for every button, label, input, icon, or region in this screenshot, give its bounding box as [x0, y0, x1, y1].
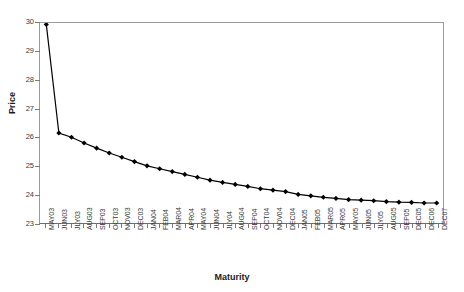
x-tick-mark	[134, 224, 135, 228]
x-tick-label: AUG05	[390, 186, 397, 230]
x-tick-label: JUN05	[365, 186, 372, 230]
x-tick-label: FEB05	[314, 186, 321, 230]
x-tick-label: APR04	[188, 186, 195, 230]
x-tick-label: JAN05	[301, 186, 308, 230]
x-tick-label: MAY04	[200, 186, 207, 230]
x-tick-label: JUN04	[213, 186, 220, 230]
y-tick-mark	[35, 109, 40, 110]
x-tick-label: OCT04	[263, 186, 270, 230]
x-tick-mark	[425, 224, 426, 228]
x-tick-label: DEC05	[415, 186, 422, 230]
x-tick-label: DEC06	[428, 186, 435, 230]
x-tick-mark	[248, 224, 249, 228]
x-tick-label: MAR04	[175, 186, 182, 230]
x-tick-label: DEC04	[289, 186, 296, 230]
x-tick-mark	[96, 224, 97, 228]
x-tick-label: MAY03	[48, 186, 55, 230]
x-tick-label: OCT03	[112, 186, 119, 230]
x-tick-mark	[362, 224, 363, 228]
x-tick-label: DEC07	[441, 186, 448, 230]
y-tick-mark	[35, 166, 40, 167]
x-tick-label: JLY05	[377, 186, 384, 230]
y-tick-mark	[35, 22, 40, 23]
y-tick-mark	[35, 51, 40, 52]
x-tick-mark	[336, 224, 337, 228]
x-tick-mark	[83, 224, 84, 228]
x-tick-mark	[45, 224, 46, 228]
x-tick-mark	[349, 224, 350, 228]
x-tick-label: DEC03	[137, 186, 144, 230]
x-tick-label: SEP04	[251, 186, 258, 230]
y-tick-mark	[35, 224, 40, 225]
x-tick-mark	[235, 224, 236, 228]
x-tick-mark	[286, 224, 287, 228]
x-tick-mark	[324, 224, 325, 228]
x-tick-mark	[109, 224, 110, 228]
x-tick-label: MAR05	[327, 186, 334, 230]
x-tick-mark	[71, 224, 72, 228]
x-tick-mark	[438, 224, 439, 228]
x-tick-label: JUN03	[61, 186, 68, 230]
x-tick-mark	[273, 224, 274, 228]
x-tick-mark	[210, 224, 211, 228]
x-axis-tick-labels: MAY03JUN03JLY03AUG03SEP03OCT03NOV03DEC03…	[0, 0, 464, 292]
x-tick-mark	[185, 224, 186, 228]
x-tick-label: NOV03	[124, 186, 131, 230]
y-tick-mark	[35, 80, 40, 81]
x-tick-mark	[159, 224, 160, 228]
x-tick-label: NOV04	[276, 186, 283, 230]
x-tick-label: APR05	[339, 186, 346, 230]
x-tick-mark	[387, 224, 388, 228]
x-tick-label: JAN04	[150, 186, 157, 230]
x-tick-mark	[400, 224, 401, 228]
x-tick-label: JLY04	[226, 186, 233, 230]
x-tick-mark	[298, 224, 299, 228]
x-tick-label: JLY03	[74, 186, 81, 230]
x-tick-mark	[374, 224, 375, 228]
x-tick-mark	[260, 224, 261, 228]
x-tick-mark	[172, 224, 173, 228]
x-tick-mark	[58, 224, 59, 228]
x-tick-mark	[147, 224, 148, 228]
x-tick-mark	[121, 224, 122, 228]
x-tick-label: AUG04	[238, 186, 245, 230]
x-tick-mark	[223, 224, 224, 228]
x-tick-label: SEP05	[403, 186, 410, 230]
x-tick-label: MAY05	[352, 186, 359, 230]
x-tick-mark	[412, 224, 413, 228]
x-tick-label: FEB04	[162, 186, 169, 230]
x-tick-label: SEP03	[99, 186, 106, 230]
x-tick-label: AUG03	[86, 186, 93, 230]
chart-page: Price 2324252627282930 MAY03JUN03JLY03AU…	[0, 0, 464, 292]
x-tick-mark	[311, 224, 312, 228]
y-tick-mark	[35, 137, 40, 138]
x-tick-mark	[197, 224, 198, 228]
x-axis-title: Maturity	[0, 272, 464, 282]
y-tick-mark	[35, 195, 40, 196]
